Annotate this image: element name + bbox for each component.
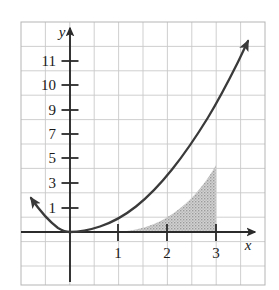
x-tick-label-2: 2 <box>163 245 171 261</box>
figure-background <box>0 0 279 290</box>
graph-svg: y x 11 10 9 7 5 3 1 1 2 3 <box>0 0 279 290</box>
x-tick-label-3: 3 <box>212 245 220 261</box>
y-axis-label: y <box>57 24 66 40</box>
y-tick-label-1: 1 <box>49 200 57 216</box>
y-tick-label-5: 5 <box>49 150 57 166</box>
x-tick-label-1: 1 <box>114 245 122 261</box>
y-tick-label-10: 10 <box>41 77 56 93</box>
y-tick-label-11: 11 <box>42 53 56 69</box>
y-tick-label-3: 3 <box>49 175 57 191</box>
y-tick-label-7: 7 <box>49 126 57 142</box>
x-axis-label: x <box>244 237 252 253</box>
y-tick-label-9: 9 <box>49 102 57 118</box>
graph-figure: y x 11 10 9 7 5 3 1 1 2 3 <box>0 0 279 290</box>
